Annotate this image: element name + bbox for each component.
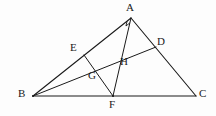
vertex-label-A: A <box>126 2 134 13</box>
segments-group <box>33 18 196 96</box>
side-AB <box>33 18 131 96</box>
vertex-label-G: G <box>88 70 96 81</box>
vertex-label-H: H <box>120 56 128 67</box>
vertex-dot-F <box>112 95 114 97</box>
geometry-figure: A B C D E F G H <box>0 0 216 116</box>
vertex-label-C: C <box>199 88 206 99</box>
vertex-dot-B <box>32 95 34 97</box>
vertex-label-E: E <box>70 42 77 53</box>
vertex-label-F: F <box>109 99 115 110</box>
side-AC <box>131 18 196 96</box>
vertex-label-B: B <box>18 88 25 99</box>
vertex-label-D: D <box>157 36 165 47</box>
figure-canvas <box>0 0 216 116</box>
